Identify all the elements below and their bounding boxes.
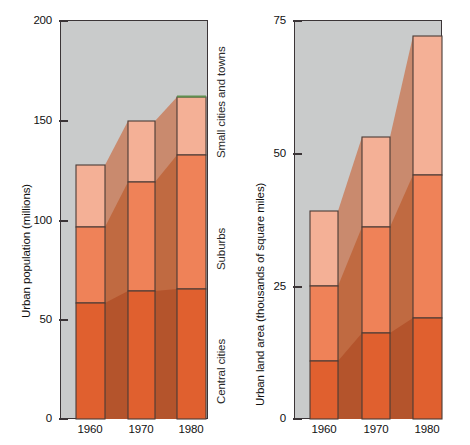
- bar-segment-suburbs-1970-right: [362, 227, 390, 333]
- bar-segment-central-cities-1970-right: [362, 333, 390, 419]
- bar-segment-small-cities-1970: [128, 121, 155, 182]
- left-bar-1980: [177, 97, 206, 420]
- bar-segment-small-cities-1980: [177, 97, 206, 155]
- left-xlabel-1980: 1980: [161, 423, 221, 435]
- right-bar-1970: [362, 137, 390, 419]
- right-xlabel-1980: 1980: [397, 423, 457, 435]
- bar-segment-central-cities-1960-right: [310, 361, 338, 419]
- bar-segment-central-cities-1980-right: [413, 318, 442, 419]
- bar-segment-suburbs-1970: [128, 182, 155, 291]
- right-bars-svg: [235, 0, 470, 445]
- category-label-central-cities: Central cities: [215, 339, 227, 404]
- right-bar-1960: [310, 211, 338, 419]
- left-bar-1960: [76, 165, 105, 419]
- right-xlabel-1960: 1960: [294, 423, 354, 435]
- right-bar-1980: [413, 36, 442, 419]
- left-bar-1970: [128, 121, 155, 419]
- bar-segment-central-cities-1970: [128, 291, 155, 419]
- bar-segment-suburbs-1960: [76, 227, 105, 303]
- bar-segment-suburbs-1980: [177, 155, 206, 289]
- bar-segment-suburbs-1960-right: [310, 286, 338, 361]
- bar-segment-central-cities-1980: [177, 289, 206, 419]
- category-label-suburbs: Suburbs: [215, 228, 227, 270]
- dual-bar-chart-figure: 200 150 100 50 0 Urban population (milli…: [0, 0, 470, 445]
- bar-segment-central-cities-1960: [76, 303, 105, 419]
- bar-segment-small-cities-1960: [76, 165, 105, 227]
- left-chart-panel: 200 150 100 50 0 Urban population (milli…: [0, 0, 235, 445]
- ribbon-central-1960-1970: [105, 291, 128, 419]
- left-bars-svg: [0, 0, 235, 445]
- ribbon-central-1970-1980-right: [390, 318, 413, 419]
- ribbon-central-1970-1980: [155, 289, 177, 419]
- right-chart-panel: 75 50 25 0 Urban land area (thousands of…: [235, 0, 470, 445]
- bar-segment-small-cities-1960-right: [310, 211, 338, 286]
- bar-segment-small-cities-1970-right: [362, 137, 390, 227]
- bar-segment-small-cities-1980-right: [413, 36, 442, 175]
- bar-segment-suburbs-1980-right: [413, 175, 442, 318]
- category-label-small-cities-and-towns: Small cities and towns: [215, 46, 227, 158]
